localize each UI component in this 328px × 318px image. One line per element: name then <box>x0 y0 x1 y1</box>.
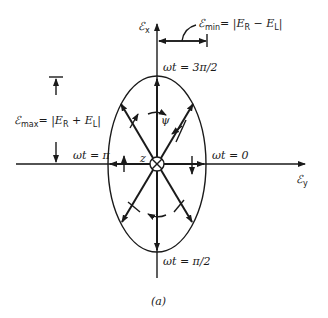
psi-label: ψ <box>161 114 170 127</box>
e-min-annotation: ℰmin= |ER − EL| <box>159 17 283 47</box>
propagation-direction-z-icon <box>150 157 164 171</box>
z-label: z <box>139 152 146 165</box>
phase-label-top: ωt = 3π/2 <box>163 61 218 74</box>
phase-label-left: ωt = π <box>73 149 111 162</box>
x-axis-label: ℰx <box>138 20 150 35</box>
y-axis-label: ℰy <box>296 173 308 188</box>
phase-label-bottom: ωt = π/2 <box>163 255 211 268</box>
figure-caption: (a) <box>151 295 166 308</box>
phase-label-right: ωt = 0 <box>212 149 249 162</box>
svg-text:ℰmin= |ER − EL|: ℰmin= |ER − EL| <box>198 17 283 32</box>
svg-text:ℰmax= |ER + EL|: ℰmax= |ER + EL| <box>14 114 101 129</box>
elliptical-polarization-diagram: ℰx ℰy ωt = 3π/2 ωt = π/2 ωt = π ωt = 0 ψ… <box>0 0 328 318</box>
